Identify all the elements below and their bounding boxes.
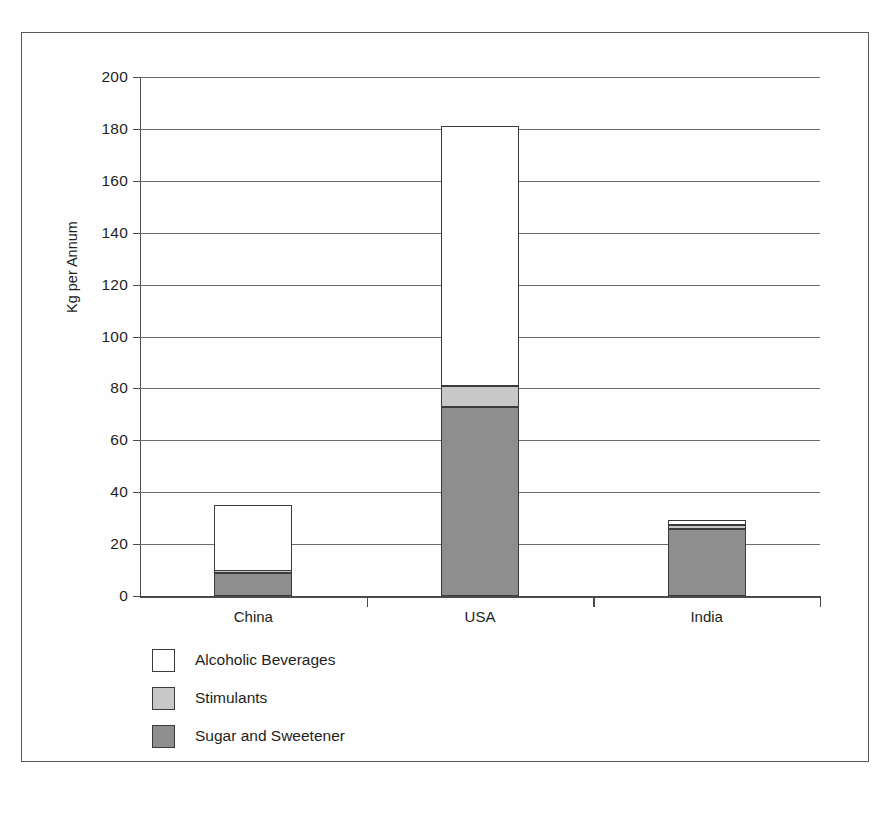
- y-axis-tick: [133, 181, 140, 182]
- bar-group-usa: [441, 77, 519, 596]
- y-axis-tick: [133, 388, 140, 389]
- y-axis-tick: [133, 440, 140, 441]
- bar-segment: [668, 520, 746, 525]
- legend-item: Stimulants: [152, 679, 345, 717]
- legend-label: Alcoholic Beverages: [195, 651, 335, 669]
- y-axis-tick: [133, 129, 140, 130]
- y-axis-tick-label: 40: [110, 483, 128, 501]
- y-axis-tick-label: 180: [102, 120, 128, 138]
- bar-segment: [668, 525, 746, 529]
- bar-segment: [441, 386, 519, 407]
- legend-swatch-alcohol: [152, 649, 175, 672]
- y-axis-tick-label: 100: [102, 328, 128, 346]
- plot-area: Kg per Annum 020406080100120140160180200…: [140, 77, 820, 596]
- legend-swatch-stimulant: [152, 687, 175, 710]
- bar-group-india: [668, 77, 746, 596]
- legend-swatch-sugar: [152, 725, 175, 748]
- y-axis-tick-label: 0: [119, 587, 128, 605]
- y-axis-title: Kg per Annum: [64, 221, 80, 313]
- x-axis-tick-label: India: [690, 608, 723, 625]
- y-axis-tick: [133, 337, 140, 338]
- y-axis-tick: [133, 544, 140, 545]
- bar-segment: [441, 407, 519, 596]
- bar-segment: [441, 126, 519, 386]
- bar-segment: [214, 573, 292, 596]
- x-axis-tick: [593, 596, 594, 607]
- x-axis-line: [140, 596, 820, 598]
- y-axis-tick: [133, 492, 140, 493]
- y-axis-tick: [133, 233, 140, 234]
- y-axis-tick-label: 80: [110, 379, 128, 397]
- y-axis-tick: [133, 77, 140, 78]
- y-axis-tick: [133, 285, 140, 286]
- y-axis-tick: [133, 596, 140, 597]
- bar-segment: [668, 529, 746, 596]
- legend-item: Sugar and Sweetener: [152, 717, 345, 755]
- x-axis-tick: [367, 596, 368, 607]
- bar-segment: [214, 505, 292, 571]
- y-axis-tick-label: 160: [102, 172, 128, 190]
- x-axis-tick: [820, 596, 821, 607]
- legend-label: Stimulants: [195, 689, 267, 707]
- y-axis-tick-label: 60: [110, 431, 128, 449]
- x-axis-tick-label: China: [234, 608, 273, 625]
- y-axis-tick-label: 120: [102, 276, 128, 294]
- x-axis-tick-label: USA: [465, 608, 496, 625]
- y-axis-tick-label: 200: [102, 68, 128, 86]
- chart-legend: Alcoholic BeveragesStimulantsSugar and S…: [152, 641, 345, 755]
- legend-item: Alcoholic Beverages: [152, 641, 345, 679]
- y-axis-tick-label: 20: [110, 535, 128, 553]
- y-axis-tick-label: 140: [102, 224, 128, 242]
- legend-label: Sugar and Sweetener: [195, 727, 345, 745]
- figure-frame: Kg per Annum 020406080100120140160180200…: [21, 32, 869, 762]
- bar-group-china: [214, 77, 292, 596]
